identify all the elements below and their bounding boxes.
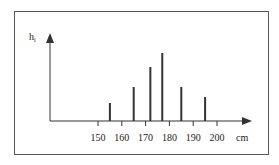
bar — [149, 67, 151, 121]
x-axis-label: cm — [236, 132, 248, 143]
bar — [204, 97, 206, 121]
bar — [133, 87, 135, 121]
stem-chart: hi cm 150160170180190200 — [0, 0, 279, 165]
x-tick-label: 180 — [162, 132, 177, 143]
bar — [109, 103, 111, 121]
bar — [161, 53, 163, 121]
x-axis-arrow-icon — [242, 117, 252, 125]
x-tick-label: 190 — [186, 132, 201, 143]
y-axis-arrow-icon — [46, 33, 54, 43]
x-tick-label: 200 — [210, 132, 225, 143]
bar — [180, 87, 182, 121]
x-tick-label: 150 — [91, 132, 106, 143]
x-ticks: 150160170180190200 — [91, 121, 225, 143]
x-tick-label: 160 — [114, 132, 129, 143]
x-tick-label: 170 — [138, 132, 153, 143]
bars — [109, 53, 206, 121]
y-axis-label: hi — [29, 31, 36, 43]
